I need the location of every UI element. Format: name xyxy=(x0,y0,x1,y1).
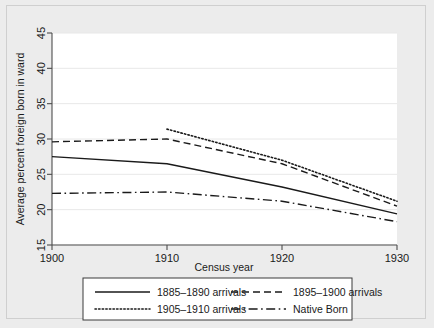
legend-label-1: 1895–1900 arrivals xyxy=(293,286,382,298)
x-tick-label: 1910 xyxy=(155,252,179,264)
y-axis-ticks xyxy=(47,33,52,245)
y-tick-label: 40 xyxy=(35,62,47,74)
legend-label-3: Native Born xyxy=(293,303,348,315)
y-tick-label: 35 xyxy=(35,98,47,110)
line-chart: 15202530354045 1900191019201930 Census y… xyxy=(0,0,434,328)
y-axis-title: Average percent foreign born in ward xyxy=(14,53,26,226)
x-tick-label: 1900 xyxy=(40,252,64,264)
x-tick-label: 1930 xyxy=(385,252,409,264)
y-tick-label: 25 xyxy=(35,168,47,180)
y-tick-label: 30 xyxy=(35,133,47,145)
x-axis-title: Census year xyxy=(195,261,254,273)
y-tick-label: 15 xyxy=(35,239,47,251)
y-tick-label: 45 xyxy=(35,27,47,39)
figure-container: 15202530354045 1900191019201930 Census y… xyxy=(0,0,434,328)
y-axis-tick-labels: 15202530354045 xyxy=(35,27,47,251)
x-axis-ticks xyxy=(52,245,397,250)
x-tick-label: 1920 xyxy=(270,252,294,264)
y-tick-label: 20 xyxy=(35,204,47,216)
